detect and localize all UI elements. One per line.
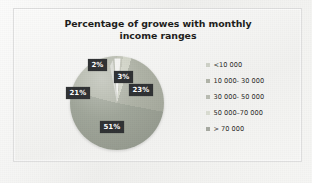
chart-title-line-1: Percentage of growes with monthly bbox=[36, 18, 280, 30]
legend-item-label: > 70 000 bbox=[214, 125, 245, 133]
pie-data-label: 51% bbox=[100, 121, 124, 133]
legend-swatch-icon bbox=[206, 111, 210, 115]
chart-legend: <10 000 10 000- 30 000 30 000- 50 000 50… bbox=[206, 57, 298, 137]
pie-data-label: 3% bbox=[114, 71, 133, 83]
legend-item-30000-50000[interactable]: 30 000- 50 000 bbox=[206, 89, 298, 105]
legend-item-label: 10 000- 30 000 bbox=[214, 77, 265, 85]
legend-item-50000-70000[interactable]: 50 000–70 000 bbox=[206, 105, 298, 121]
pie-chart: 2% 3% 23% 51% 21% bbox=[58, 51, 184, 155]
legend-item-label: 50 000–70 000 bbox=[214, 109, 263, 117]
chart-title-line-2: income ranges bbox=[36, 30, 280, 42]
legend-swatch-icon bbox=[206, 95, 210, 99]
legend-item-lt-10000[interactable]: <10 000 bbox=[206, 57, 298, 73]
scanned-slide-photo: Percentage of growes with monthly income… bbox=[0, 0, 312, 183]
page-title: Percentage of growes with monthly income… bbox=[36, 18, 280, 42]
pie-data-label: 23% bbox=[129, 84, 153, 96]
legend-item-label: <10 000 bbox=[214, 61, 243, 69]
legend-item-label: 30 000- 50 000 bbox=[214, 93, 265, 101]
legend-swatch-icon bbox=[206, 79, 210, 83]
pie-data-label: 21% bbox=[66, 87, 90, 99]
pie-data-label: 2% bbox=[88, 59, 107, 71]
legend-swatch-icon bbox=[206, 63, 210, 67]
legend-item-10000-30000[interactable]: 10 000- 30 000 bbox=[206, 73, 298, 89]
legend-swatch-icon bbox=[206, 127, 210, 131]
slide-canvas: Percentage of growes with monthly income… bbox=[13, 8, 302, 162]
legend-item-gt-70000[interactable]: > 70 000 bbox=[206, 121, 298, 137]
